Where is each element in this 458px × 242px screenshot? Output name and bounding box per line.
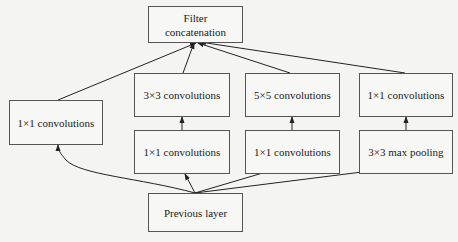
- node-previous-layer: Previous layer: [148, 193, 243, 232]
- node-conv5x5: 5×5 convolutions: [245, 73, 340, 117]
- node-label: 1×1 convolutions: [144, 145, 221, 159]
- node-label: 3×3 max pooling: [368, 145, 443, 159]
- node-label: 3×3 convolutions: [144, 88, 221, 102]
- edge-previous-to-conv1x1-b: [185, 174, 195, 193]
- inception-module-diagram: Filter concatenation 1×1 convolutions 3×…: [0, 0, 458, 242]
- node-filter-concatenation: Filter concatenation: [148, 6, 243, 43]
- edge-conv1x1-d-to-concat: [200, 42, 405, 73]
- node-conv3x3: 3×3 convolutions: [134, 73, 230, 117]
- edge-conv5x5-to-concat: [198, 43, 290, 73]
- node-conv1x1-c: 1×1 convolutions: [245, 130, 340, 174]
- node-maxpool3x3: 3×3 max pooling: [359, 130, 453, 174]
- node-label: 1×1 convolutions: [18, 116, 95, 130]
- node-label: Filter concatenation: [165, 11, 226, 39]
- node-conv1x1-b: 1×1 convolutions: [134, 130, 230, 174]
- node-conv1x1-d: 1×1 convolutions: [359, 73, 453, 117]
- node-label: 5×5 convolutions: [254, 88, 331, 102]
- node-label: 1×1 convolutions: [368, 88, 445, 102]
- node-label: Previous layer: [164, 206, 227, 220]
- node-conv1x1-a: 1×1 convolutions: [9, 100, 103, 145]
- node-label: 1×1 convolutions: [254, 145, 331, 159]
